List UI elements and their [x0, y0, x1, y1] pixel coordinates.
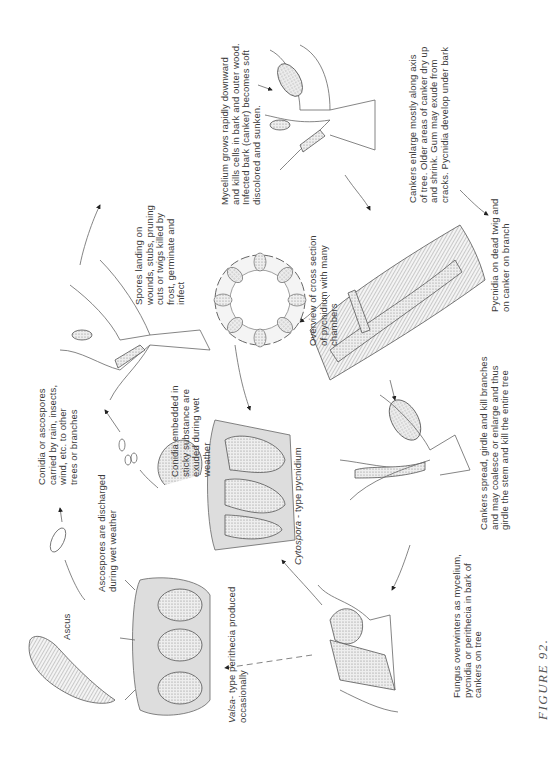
pycnidium-cross-section-drawing: [214, 253, 306, 347]
label-pycnidia-dead-twig: Pycnidia on dead twig and on canker on b…: [490, 199, 511, 312]
label-cankers-spread: Cankers spread, girdle and kill branches…: [479, 356, 511, 530]
valsa-genus: Valsa: [226, 699, 237, 723]
arrow-to-conidia: [235, 345, 250, 410]
label-conidia-carried: Conidia or ascospores carried by rain, i…: [37, 385, 79, 485]
cytospora-type-text: - type pycnidium: [292, 447, 303, 521]
arrow-to-cytospora: [282, 560, 322, 605]
figure-caption: FIGURE 92.: [535, 639, 549, 720]
label-mycelium-grows: Mycelium grows rapidly downward and kill…: [220, 43, 262, 205]
label-conidia-embedded: Conidia embedded in sticky substance are…: [170, 385, 212, 477]
mycelium-grows-tree-drawing: [258, 45, 375, 210]
label-spores-landing: Spores landing on wounds, stubs, pruning…: [134, 205, 187, 305]
valsa-perithecia-drawing: [120, 578, 210, 715]
ascus-drawing: [29, 636, 115, 703]
ascospore-drawing: [47, 508, 85, 600]
fungus-overwinters-tree-drawing: [318, 585, 398, 712]
label-cankers-enlarge: Cankers enlarge mostly along axis of tre…: [408, 47, 450, 203]
label-ascospores-discharged: Ascospores are discharged during wet wea…: [97, 474, 118, 592]
label-cross-section: Overview of cross section of pycnidium w…: [308, 235, 340, 346]
label-valsa-type: Valsa- type perithecia produced occasion…: [227, 587, 248, 723]
label-ascus: Ascus: [62, 614, 73, 640]
cytospora-genus: Cytospora: [292, 521, 303, 565]
label-fungus-overwinters: Fungus overwinters as mycelium, pycnidia…: [452, 554, 484, 698]
label-cytospora-type: Cytospora - type pycnidium: [293, 447, 304, 565]
